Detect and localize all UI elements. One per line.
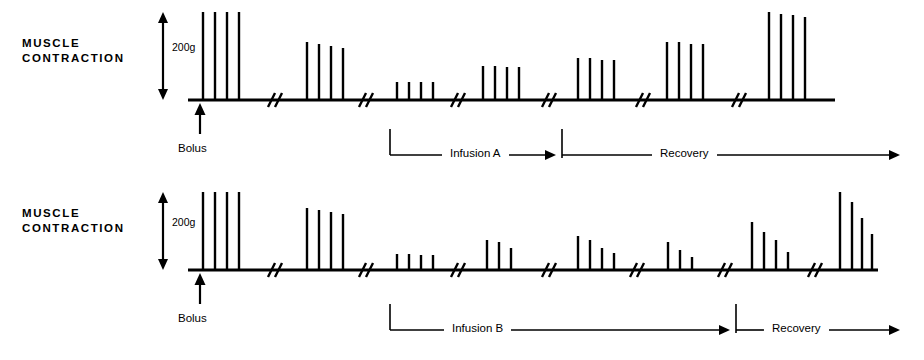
scale-bar-arrow-down bbox=[158, 259, 168, 270]
scale-bar-arrow-up bbox=[158, 192, 168, 203]
infusion-arrow-head bbox=[719, 325, 730, 335]
figure-root: MUSCLE CONTRACTION 200g Bolus Infusion A… bbox=[0, 0, 924, 360]
recovery-arrow-head bbox=[889, 150, 900, 160]
scale-bar-arrow-up bbox=[158, 12, 168, 23]
recovery-arrow-head bbox=[889, 325, 900, 335]
scale-bar-arrow-down bbox=[158, 89, 168, 100]
bolus-arrow-head bbox=[195, 103, 206, 115]
infusion-arrow-head bbox=[545, 150, 556, 160]
bolus-arrow-head bbox=[195, 273, 206, 285]
recording-traces bbox=[0, 0, 924, 360]
